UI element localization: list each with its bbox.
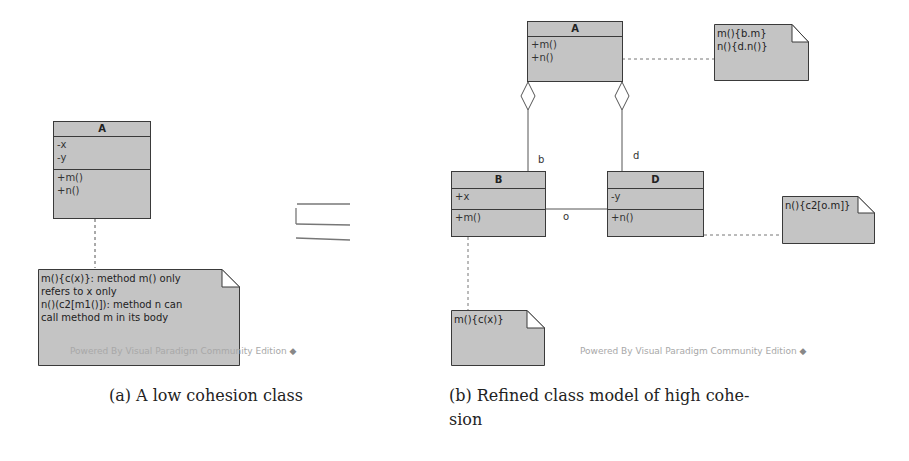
operation: +n() [531, 51, 619, 64]
role-label-b: b [538, 154, 544, 165]
role-label-d: d [633, 150, 639, 161]
watermark-a: Powered By Visual Paradigm Community Edi… [70, 346, 296, 356]
attribute: -y [57, 151, 147, 164]
attributes-compartment: -x -y [54, 137, 150, 170]
class-name: A [528, 22, 622, 37]
operation: +m() [57, 171, 147, 184]
class-b[interactable]: B +x +m() [451, 171, 546, 237]
attributes-compartment: +x [452, 189, 545, 210]
note-line: n()(c2[m1()]): method n can [41, 298, 237, 311]
attribute: -x [57, 138, 147, 151]
operations-compartment: +m() +n() [528, 37, 622, 65]
association-label-o: o [563, 211, 569, 222]
watermark-b: Powered By Visual Paradigm Community Edi… [580, 346, 806, 356]
note-line: m(){c(x)}: method m() only [41, 272, 237, 285]
caption-b-line2: sion [449, 409, 482, 431]
visual-paradigm-logo-icon: ◆ [290, 346, 297, 356]
class-d[interactable]: D -y +n() [607, 171, 704, 237]
class-a-low-cohesion[interactable]: A -x -y +m() +n() [53, 121, 151, 219]
operation: +n() [611, 211, 700, 224]
note-line: refers to x only [41, 285, 237, 298]
operation: +m() [531, 38, 619, 51]
note-class-b[interactable]: m(){c(x)} [451, 310, 545, 366]
note-line: n(){d.n()} [717, 40, 806, 53]
caption-b-line1: (b) Refined class model of high cohe- [449, 385, 749, 407]
caption-a: (a) A low cohesion class [109, 385, 303, 407]
operations-compartment: +n() [608, 210, 703, 225]
visual-paradigm-logo-icon: ◆ [800, 346, 807, 356]
class-a-refined[interactable]: A +m() +n() [527, 21, 623, 82]
note-class-a[interactable]: m(){b.m} n(){d.n()} [714, 24, 809, 81]
note-class-d[interactable]: n(){c2[o.m]} [782, 196, 875, 244]
attribute: -y [611, 190, 700, 203]
operation: +n() [57, 184, 147, 197]
operation: +m() [455, 211, 542, 224]
class-name: D [608, 172, 703, 189]
note-line: m(){c(x)} [454, 313, 542, 326]
attributes-compartment: -y [608, 189, 703, 210]
class-name: B [452, 172, 545, 189]
note-line: m(){b.m} [717, 27, 806, 40]
class-name: A [54, 122, 150, 137]
operations-compartment: +m() +n() [54, 170, 150, 198]
note-line: n(){c2[o.m]} [785, 199, 872, 212]
attribute: +x [455, 190, 542, 203]
note-line: call method m in its body [41, 311, 237, 324]
operations-compartment: +m() [452, 210, 545, 225]
